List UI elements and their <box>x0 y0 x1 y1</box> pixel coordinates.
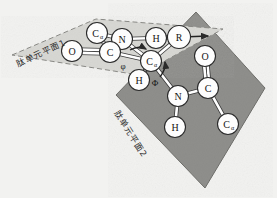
atom-o: O <box>195 46 216 67</box>
atom-c: C <box>100 42 121 63</box>
atom-h: H <box>129 70 150 91</box>
bond-b-N-H <box>130 38 147 39</box>
atom-h: H <box>165 117 186 138</box>
angle-label-psi: Φ <box>152 78 159 88</box>
atom-c-alpha: Cα <box>218 114 239 135</box>
atom-h: H <box>146 28 167 49</box>
atom-c: C <box>198 78 219 99</box>
atom-c-alpha: Cα <box>87 23 108 44</box>
atom-c-alpha: Cα <box>141 51 162 72</box>
bond-b-O-C <box>81 50 102 51</box>
angle-label-phi: φ <box>120 61 125 71</box>
bond-b-O-C <box>80 53 101 54</box>
peptide-plane-diagram: CαNOCHRCαHONCHCα φΦ 肽单元平面1 肽单元平面2 <box>0 0 277 198</box>
atom-r: R <box>168 26 191 49</box>
atom-n: N <box>168 86 189 107</box>
diagram-canvas: CαNOCHRCαHONCHCα φΦ <box>0 0 277 198</box>
